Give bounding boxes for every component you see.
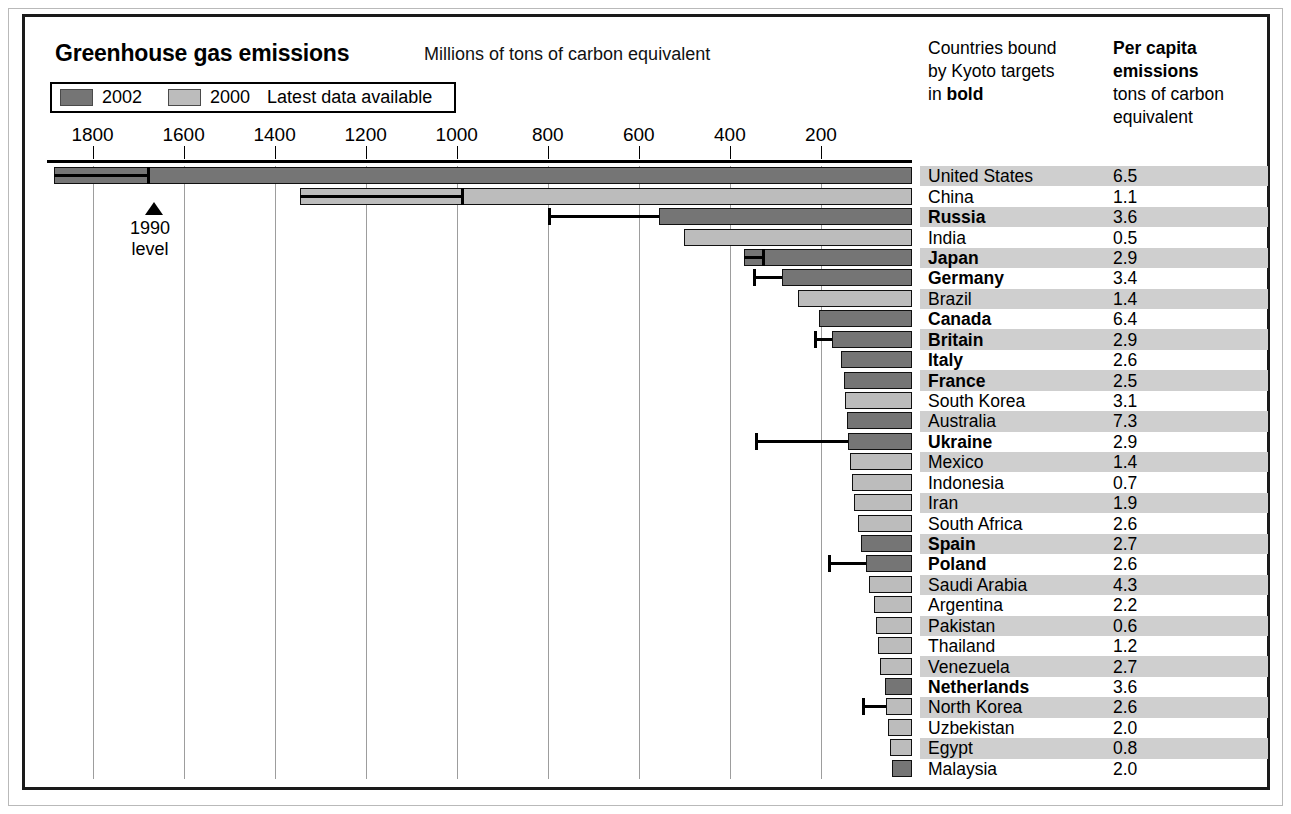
table-row[interactable]: Russia3.6: [920, 207, 1268, 227]
x-axis-tick-label: 800: [532, 124, 564, 146]
per-capita-value: 2.2: [1113, 597, 1137, 615]
table-row[interactable]: Italy2.6: [920, 350, 1268, 370]
table-row[interactable]: Canada6.4: [920, 309, 1268, 329]
table-row[interactable]: Iran1.9: [920, 493, 1268, 513]
table-row[interactable]: Uzbekistan2.0: [920, 718, 1268, 738]
table-row[interactable]: North Korea2.6: [920, 697, 1268, 717]
kyoto-note-line3-bold: bold: [946, 84, 983, 104]
country-name: Argentina: [928, 597, 1003, 615]
bar-indonesia: [852, 474, 912, 491]
bar-iran: [854, 494, 912, 511]
per-capita-value: 2.9: [1113, 250, 1137, 268]
page-title: Greenhouse gas emissions: [55, 40, 349, 67]
kyoto-note-line3: in bold: [928, 83, 1103, 106]
legend-label-2002: 2002: [102, 87, 142, 108]
level-1990-label: 1990 level: [110, 218, 190, 260]
level-1990-line-poland: [47, 555, 912, 572]
table-row[interactable]: Argentina2.2: [920, 595, 1268, 615]
bar-mexico: [850, 453, 912, 470]
table-row[interactable]: India0.5: [920, 227, 1268, 247]
table-row[interactable]: Japan2.9: [920, 248, 1268, 268]
bar-south-korea: [845, 392, 912, 409]
table-row[interactable]: Ukraine2.9: [920, 432, 1268, 452]
country-name: Britain: [928, 332, 983, 350]
level-1990-marker-icon: [145, 202, 163, 215]
country-name: Australia: [928, 413, 996, 431]
x-axis-tick: [821, 146, 822, 159]
country-name: Germany: [928, 270, 1004, 288]
country-name: Egypt: [928, 740, 973, 758]
table-row[interactable]: South Korea3.1: [920, 391, 1268, 411]
per-capita-value: 4.3: [1113, 577, 1137, 595]
per-capita-value: 1.2: [1113, 638, 1137, 656]
table-row[interactable]: Brazil1.4: [920, 289, 1268, 309]
country-name: China: [928, 189, 974, 207]
table-row[interactable]: Malaysia2.0: [920, 759, 1268, 779]
legend: 2002 2000 Latest data available: [50, 82, 456, 113]
kyoto-note-line1: Countries bound: [928, 37, 1103, 60]
country-name: Thailand: [928, 638, 995, 656]
per-capita-value: 3.6: [1113, 209, 1137, 227]
level-1990-line-north-korea: [47, 698, 912, 715]
table-row[interactable]: Mexico1.4: [920, 452, 1268, 472]
table-row[interactable]: Britain2.9: [920, 329, 1268, 349]
per-capita-value: 1.9: [1113, 495, 1137, 513]
table-row[interactable]: Venezuela2.7: [920, 656, 1268, 676]
per-capita-value: 6.4: [1113, 311, 1137, 329]
country-name: Venezuela: [928, 659, 1010, 677]
per-capita-value: 2.0: [1113, 720, 1137, 738]
bar-india: [684, 229, 912, 246]
per-capita-value: 0.8: [1113, 740, 1137, 758]
bar-australia: [847, 412, 912, 429]
table-row[interactable]: Australia7.3: [920, 411, 1268, 431]
country-name: South Africa: [928, 516, 1022, 534]
country-name: France: [928, 373, 985, 391]
legend-swatch-2002: [60, 89, 93, 106]
per-capita-value: 1.1: [1113, 189, 1137, 207]
per-capita-value: 2.7: [1113, 536, 1137, 554]
country-name: Canada: [928, 311, 991, 329]
table-row[interactable]: Thailand1.2: [920, 636, 1268, 656]
per-capita-value: 2.6: [1113, 516, 1137, 534]
table-row[interactable]: Indonesia0.7: [920, 473, 1268, 493]
legend-swatch-2000: [168, 89, 201, 106]
per-capita-value: 3.4: [1113, 270, 1137, 288]
x-axis-tick-label: 400: [714, 124, 746, 146]
table-row[interactable]: Poland2.6: [920, 554, 1268, 574]
x-axis-tick: [457, 146, 458, 159]
per-capita-header-line2: emissions: [1113, 60, 1278, 83]
x-axis-tick-label: 1400: [253, 124, 295, 146]
per-capita-value: 0.5: [1113, 230, 1137, 248]
table-row[interactable]: South Africa2.6: [920, 513, 1268, 533]
x-axis-tick-label: 1600: [162, 124, 204, 146]
bar-thailand: [878, 637, 912, 654]
table-row[interactable]: Germany3.4: [920, 268, 1268, 288]
country-name: Indonesia: [928, 475, 1004, 493]
table-row[interactable]: Saudi Arabia4.3: [920, 575, 1268, 595]
table-row[interactable]: France2.5: [920, 370, 1268, 390]
per-capita-value: 2.9: [1113, 434, 1137, 452]
table-row[interactable]: Egypt0.8: [920, 738, 1268, 758]
per-capita-header-line3: tons of carbon: [1113, 83, 1278, 106]
per-capita-value: 2.6: [1113, 352, 1137, 370]
per-capita-value: 0.7: [1113, 475, 1137, 493]
x-axis-tick-label: 1200: [345, 124, 387, 146]
table-row[interactable]: United States6.5: [920, 166, 1268, 186]
per-capita-value: 3.6: [1113, 679, 1137, 697]
x-axis-tick: [730, 146, 731, 159]
bar-south-africa: [858, 515, 912, 532]
table-row[interactable]: Netherlands3.6: [920, 677, 1268, 697]
country-name: Saudi Arabia: [928, 577, 1027, 595]
x-axis-tick-label: 1000: [436, 124, 478, 146]
table-row[interactable]: China1.1: [920, 186, 1268, 206]
country-name: Brazil: [928, 291, 972, 309]
table-row[interactable]: Spain2.7: [920, 534, 1268, 554]
bar-france: [844, 372, 912, 389]
per-capita-value: 2.7: [1113, 659, 1137, 677]
chart-subtitle: Millions of tons of carbon equivalent: [424, 44, 710, 65]
bar-uzbekistan: [888, 719, 912, 736]
bar-italy: [841, 351, 912, 368]
table-row[interactable]: Pakistan0.6: [920, 616, 1268, 636]
x-axis-tick: [366, 146, 367, 159]
country-name: Ukraine: [928, 434, 992, 452]
